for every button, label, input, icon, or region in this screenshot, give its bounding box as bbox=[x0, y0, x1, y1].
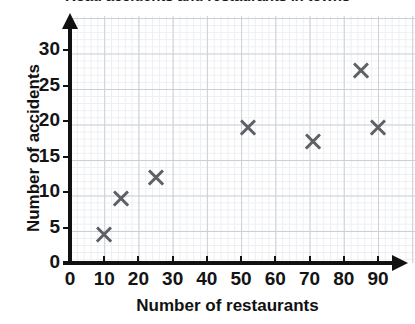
y-axis-tick bbox=[63, 49, 72, 51]
x-axis-tick bbox=[103, 256, 105, 265]
x-axis-tick bbox=[137, 256, 139, 265]
x-axis-tick bbox=[240, 256, 242, 265]
x-axis-tick bbox=[377, 256, 379, 265]
x-axis-line bbox=[63, 261, 396, 265]
x-axis-tick bbox=[274, 256, 276, 265]
x-axis-tick bbox=[309, 256, 311, 265]
y-axis-tick bbox=[63, 156, 72, 158]
x-axis-title: Number of restaurants bbox=[55, 296, 400, 316]
data-point-marker bbox=[237, 117, 259, 139]
y-axis-tick bbox=[63, 120, 72, 122]
x-axis-tick bbox=[172, 256, 174, 265]
plot-area bbox=[70, 16, 415, 263]
y-axis-tick bbox=[63, 227, 72, 229]
data-point-marker bbox=[145, 167, 167, 189]
x-axis-tick bbox=[206, 256, 208, 265]
chart-title: Road accidents and restaurants in towns bbox=[0, 0, 415, 4]
y-axis-title: Number of accidents bbox=[24, 18, 44, 278]
data-point-marker bbox=[110, 188, 132, 210]
y-axis-arrowhead-icon bbox=[62, 13, 78, 29]
data-point-marker bbox=[367, 117, 389, 139]
x-axis-tick-label: 90 bbox=[358, 268, 398, 290]
x-axis-tick bbox=[343, 256, 345, 265]
y-axis-tick bbox=[63, 191, 72, 193]
data-point-marker bbox=[350, 60, 372, 82]
y-axis-line bbox=[68, 28, 72, 265]
scatter-chart: Road accidents and restaurants in towns … bbox=[0, 0, 415, 324]
y-axis-tick bbox=[63, 85, 72, 87]
data-point-marker bbox=[93, 224, 115, 246]
y-axis-tick bbox=[63, 262, 72, 264]
data-point-marker bbox=[302, 131, 324, 153]
